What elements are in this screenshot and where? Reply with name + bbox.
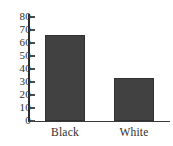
bar-chart: 80706050403020100 BlackWhite [0,0,173,146]
bar-black [45,35,85,121]
bar-white [114,78,154,121]
y-axis-tick-label: 50 [5,50,31,61]
x-axis-label-black: Black [35,126,95,139]
y-axis-tick-label: 10 [5,102,31,113]
plot-area: 80706050403020100 BlackWhite [0,0,173,146]
y-axis-tick-label: 0 [5,115,31,126]
y-axis-tick-label: 70 [5,24,31,35]
x-axis-label-white: White [104,126,164,139]
y-axis-tick-label: 30 [5,76,31,87]
y-axis-tick-label: 20 [5,89,31,100]
y-axis-tick-label: 80 [5,11,31,22]
y-axis-tick-label: 60 [5,37,31,48]
y-axis-tick-label: 40 [5,63,31,74]
